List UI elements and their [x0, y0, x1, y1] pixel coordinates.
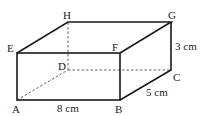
prism-diagram: A B C D E F G H 8 cm 5 cm 3 cm	[0, 0, 201, 116]
vertex-label-E: E	[7, 42, 14, 54]
vertex-label-B: B	[115, 103, 122, 115]
vertex-label-F: F	[112, 41, 118, 53]
vertex-label-A: A	[12, 103, 20, 115]
vertex-label-G: G	[168, 9, 176, 21]
face-EFGH-top	[17, 22, 171, 53]
dimension-AB: 8 cm	[57, 102, 79, 114]
dimension-CG: 3 cm	[175, 40, 197, 52]
face-ABFE	[17, 53, 120, 100]
vertex-label-D: D	[58, 60, 66, 72]
vertex-label-H: H	[63, 9, 71, 21]
vertex-label-C: C	[173, 71, 180, 83]
edge-AD-hidden	[17, 70, 68, 100]
dimension-BC: 5 cm	[146, 86, 168, 98]
